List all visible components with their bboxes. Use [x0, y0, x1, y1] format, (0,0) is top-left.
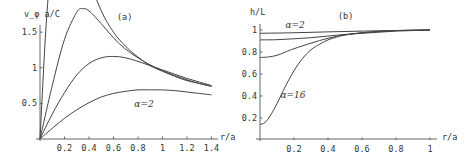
panel-a-x-tick-label: 0.6: [106, 143, 121, 153]
panel-b-y-tick-label: 0.2: [242, 113, 257, 123]
panel-a-series-alpha4: [40, 56, 212, 139]
panel-a-x-tick-label: 0.2: [57, 143, 72, 153]
panel-a-y-tick-label: 1.5: [22, 27, 37, 37]
panel-a-series-alpha2: [40, 90, 212, 139]
panel-b-x-label: r/a: [442, 132, 457, 142]
panel-a-series-alpha8: [40, 9, 212, 139]
panel-a: 0.20.40.60.811.21.4 0.511.522.53 v_φ a/C…: [22, 0, 236, 153]
panel-b-x-tick-label: 0.2: [286, 144, 301, 154]
panel-b-x-tick-label: 0.8: [388, 144, 403, 154]
panel-a-y-tick-label: 1: [32, 63, 37, 73]
panel-b-panel-label: (b): [338, 11, 353, 21]
panel-a-y-label: v_φ a/C: [24, 9, 60, 19]
panel-a-x-label: r/a: [220, 132, 235, 142]
panel-a-panel-label: (a): [117, 12, 132, 22]
panel-a-x-tick-label: 0.8: [130, 143, 145, 153]
panel-a-x-tick-label: 1.4: [204, 143, 219, 153]
panel-a-x-tick-label: 1.2: [179, 143, 194, 153]
figure: 0.20.40.60.811.21.4 0.511.522.53 v_φ a/C…: [0, 0, 475, 155]
panel-b-y-tick-label: 1: [252, 25, 257, 35]
panel-b-y-tick-label: 0.6: [242, 69, 257, 79]
panel-b-annotation-alpha2: α=2: [286, 20, 306, 30]
panel-b-y-label: h/L: [250, 7, 265, 17]
panel-b-x-tick-label: 0.4: [320, 144, 335, 154]
panel-b: 0.20.40.60.81 0.20.40.60.81 h/L r/a (b) …: [242, 7, 458, 154]
panel-a-y-tick-label: 2: [32, 0, 37, 2]
panel-b-y-tick-label: 0.4: [242, 91, 257, 101]
panel-a-annotation-alpha2: α=2: [134, 99, 154, 109]
panel-b-x-tick-label: 0.6: [354, 144, 369, 154]
panel-b-x-tick-label: 1: [427, 144, 432, 154]
panel-a-x-tick-label: 1: [160, 143, 165, 153]
panel-b-series-alpha16: [260, 30, 430, 125]
panel-a-x-tick-label: 0.4: [81, 143, 96, 153]
panel-a-y-tick-label: 0.5: [22, 98, 37, 108]
panel-b-y-tick-label: 0.8: [242, 47, 257, 57]
panel-b-annotation-alpha16: α=16: [280, 90, 305, 100]
